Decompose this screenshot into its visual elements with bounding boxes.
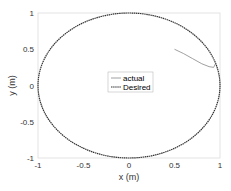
y-axis-label: y (m) (7, 75, 17, 96)
svg-text:0.5: 0.5 (169, 161, 181, 170)
svg-text:1: 1 (30, 9, 35, 18)
y-tick-labels: -1-0.500.51 (20, 9, 34, 163)
svg-text:0: 0 (30, 82, 35, 91)
svg-text:0.5: 0.5 (23, 45, 35, 54)
chart: -1-0.500.51 -1-0.500.51 x (m) y (m) actu… (0, 0, 231, 191)
svg-text:-1: -1 (34, 161, 42, 170)
legend-actual: actual (123, 74, 145, 83)
x-axis-label: x (m) (119, 172, 140, 182)
svg-text:-0.5: -0.5 (20, 118, 34, 127)
legend: actual Desired (108, 72, 153, 92)
legend-desired: Desired (123, 83, 151, 92)
x-tick-labels: -1-0.500.51 (34, 161, 222, 170)
svg-text:-0.5: -0.5 (77, 161, 91, 170)
svg-text:-1: -1 (27, 154, 35, 163)
svg-text:0: 0 (127, 161, 132, 170)
svg-text:1: 1 (218, 161, 223, 170)
